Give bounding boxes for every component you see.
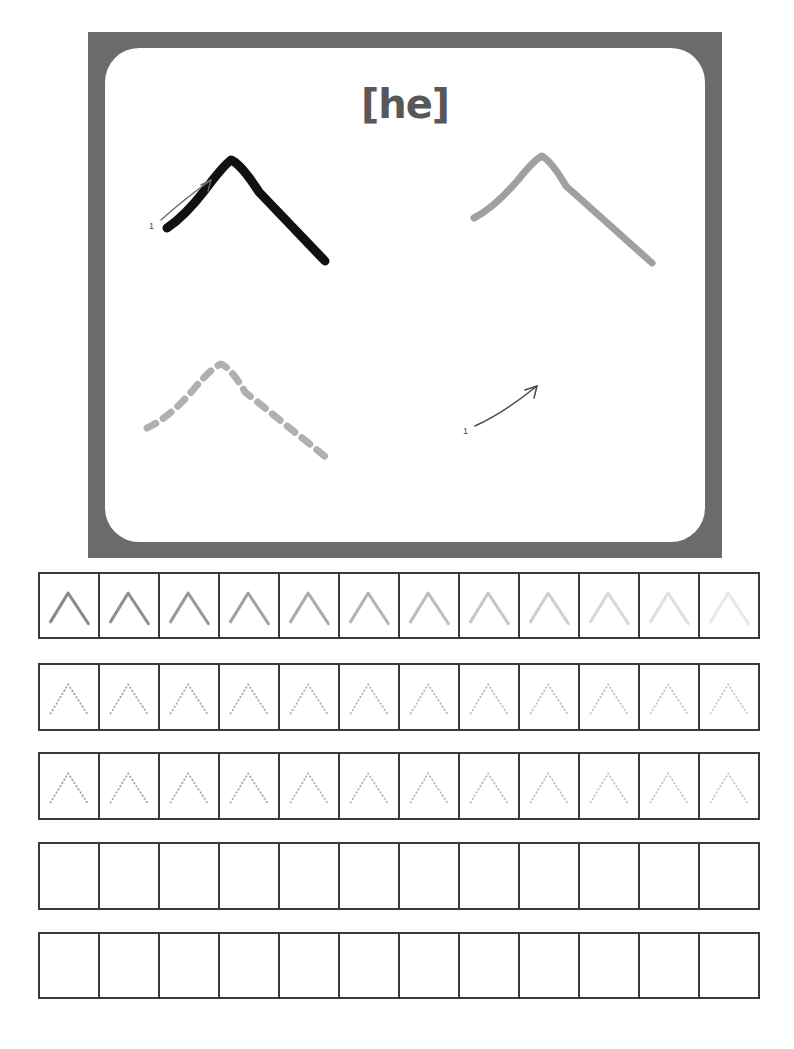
practice-cell[interactable] — [580, 574, 640, 637]
practice-cell[interactable] — [460, 754, 520, 818]
tracing-glyph-dotted — [220, 754, 278, 818]
solid-gray-glyph — [460, 138, 690, 278]
practice-cell[interactable] — [580, 754, 640, 818]
example-bottom-right: 1 — [455, 348, 635, 458]
practice-cell[interactable] — [400, 844, 460, 908]
tracing-glyph-dotted — [40, 665, 98, 729]
tracing-glyph-dotted — [460, 754, 518, 818]
tracing-glyph-solid — [460, 574, 518, 637]
practice-cell[interactable] — [520, 844, 580, 908]
practice-cell[interactable] — [640, 665, 700, 729]
tracing-glyph-solid — [220, 574, 278, 637]
practice-cell[interactable] — [340, 665, 400, 729]
row-dotted-a — [38, 663, 760, 731]
stroke-direction-arrow-2 — [455, 348, 635, 458]
practice-cell[interactable] — [520, 934, 580, 997]
practice-cell[interactable] — [280, 665, 340, 729]
practice-cell[interactable] — [220, 844, 280, 908]
practice-cell[interactable] — [220, 934, 280, 997]
practice-cell[interactable] — [160, 934, 220, 997]
practice-cell[interactable] — [340, 574, 400, 637]
tracing-glyph-dotted — [640, 665, 698, 729]
tracing-glyph-dotted — [340, 754, 398, 818]
stroke-order-number-1: 1 — [149, 222, 154, 231]
practice-cell[interactable] — [400, 665, 460, 729]
tracing-glyph-solid — [400, 574, 458, 637]
practice-cell[interactable] — [460, 574, 520, 637]
tracing-glyph-dotted — [700, 665, 758, 729]
practice-cell[interactable] — [220, 574, 280, 637]
stroke-order-number-2: 1 — [463, 427, 468, 436]
practice-cell[interactable] — [100, 754, 160, 818]
example-bottom-left — [129, 338, 419, 478]
row-solid-fade — [38, 572, 760, 639]
tracing-glyph-dotted — [160, 754, 218, 818]
practice-cell[interactable] — [400, 754, 460, 818]
row-blank-b — [38, 932, 760, 999]
practice-cell[interactable] — [280, 754, 340, 818]
tracing-glyph-dotted — [100, 754, 158, 818]
tracing-glyph-solid — [520, 574, 578, 637]
tracing-glyph-dotted — [640, 754, 698, 818]
tracing-glyph-dotted — [160, 665, 218, 729]
tracing-glyph-solid — [40, 574, 98, 637]
practice-cell[interactable] — [280, 934, 340, 997]
practice-cell[interactable] — [640, 844, 700, 908]
practice-cell[interactable] — [460, 844, 520, 908]
row-dotted-b — [38, 752, 760, 820]
practice-cell[interactable] — [700, 844, 758, 908]
practice-cell[interactable] — [160, 754, 220, 818]
practice-cell[interactable] — [580, 934, 640, 997]
practice-cell[interactable] — [640, 574, 700, 637]
practice-cell[interactable] — [580, 844, 640, 908]
practice-cell[interactable] — [100, 574, 160, 637]
practice-cell[interactable] — [700, 574, 758, 637]
tracing-glyph-dotted — [40, 754, 98, 818]
tracing-glyph-dotted — [520, 754, 578, 818]
practice-cell[interactable] — [700, 934, 758, 997]
example-top-right — [460, 138, 690, 278]
dashed-gray-glyph — [129, 338, 419, 478]
practice-cell[interactable] — [700, 665, 758, 729]
practice-cell[interactable] — [340, 754, 400, 818]
practice-cell[interactable] — [40, 574, 100, 637]
practice-cell[interactable] — [520, 754, 580, 818]
practice-cell[interactable] — [280, 844, 340, 908]
practice-cell[interactable] — [520, 574, 580, 637]
practice-cell[interactable] — [160, 844, 220, 908]
practice-cell[interactable] — [40, 665, 100, 729]
tracing-glyph-dotted — [700, 754, 758, 818]
practice-cell[interactable] — [220, 754, 280, 818]
practice-cell[interactable] — [640, 754, 700, 818]
practice-cell[interactable] — [100, 844, 160, 908]
tracing-glyph-dotted — [400, 665, 458, 729]
tracing-glyph-dotted — [100, 665, 158, 729]
practice-cell[interactable] — [220, 665, 280, 729]
tracing-glyph-dotted — [280, 665, 338, 729]
practice-cell[interactable] — [40, 844, 100, 908]
row-blank-a — [38, 842, 760, 910]
practice-cell[interactable] — [520, 665, 580, 729]
practice-cell[interactable] — [400, 574, 460, 637]
practice-cell[interactable] — [580, 665, 640, 729]
practice-cell[interactable] — [160, 574, 220, 637]
practice-cell[interactable] — [460, 665, 520, 729]
practice-cell[interactable] — [40, 934, 100, 997]
tracing-glyph-solid — [580, 574, 638, 637]
practice-cell[interactable] — [160, 665, 220, 729]
practice-cell[interactable] — [100, 665, 160, 729]
practice-cell[interactable] — [460, 934, 520, 997]
practice-cell[interactable] — [40, 754, 100, 818]
practice-cell[interactable] — [400, 934, 460, 997]
tracing-glyph-solid — [340, 574, 398, 637]
practice-cell[interactable] — [100, 934, 160, 997]
tracing-glyph-dotted — [340, 665, 398, 729]
practice-cell[interactable] — [700, 754, 758, 818]
tracing-glyph-solid — [100, 574, 158, 637]
tracing-glyph-dotted — [220, 665, 278, 729]
practice-cell[interactable] — [340, 844, 400, 908]
demo-box-inner: [he] 1 — [105, 48, 705, 542]
practice-cell[interactable] — [340, 934, 400, 997]
practice-cell[interactable] — [280, 574, 340, 637]
practice-cell[interactable] — [640, 934, 700, 997]
